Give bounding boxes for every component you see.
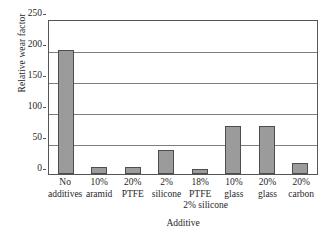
bar [292,163,308,174]
bar-slot [250,21,284,174]
bar [192,169,208,174]
x-tick-label: 20%carbon [284,177,318,200]
x-tick-line-2: additives [48,189,82,201]
y-tick-mark [43,76,46,77]
x-tick-line-2: carbon [284,189,318,201]
x-tick-label: 10%glass [217,177,251,200]
y-tick-mark [43,169,46,170]
bar-slot [183,21,217,174]
x-tick-label: Noadditives [48,177,82,200]
x-tick-label: 10%aramid [82,177,116,200]
x-tick-label: 2%silicone [150,177,184,200]
bar-slot [83,21,117,174]
y-tick-mark [43,107,46,108]
y-tick-mark [43,14,46,15]
bar [125,167,141,174]
bar-slot [116,21,150,174]
x-tick-line-2: glass [251,189,285,201]
x-tick-line-2: PTFE [116,189,150,201]
bar [91,167,107,174]
bar-slot [284,21,318,174]
x-tick-line-1: 20% [116,177,150,189]
x-tick-line-1: 10% [217,177,251,189]
y-tick-mark [43,138,46,139]
bar-slot [150,21,184,174]
x-tick-label: 20%glass [251,177,285,200]
x-tick-line-2: glass [217,189,251,201]
x-tick-label: 18%PTFE2% silicone [183,177,217,200]
x-tick-label: 20%PTFE [116,177,150,200]
y-tick-label: 200 [28,40,42,50]
y-tick-label: 150 [28,71,42,81]
x-axis-tick-labels: Noadditives10%aramid20%PTFE2%silicone18%… [48,177,318,200]
bar-chart-figure: Relative wear factor 050100150200250 Noa… [0,0,329,240]
x-tick-line-1: 2% [150,177,184,189]
bar-slot [49,21,83,174]
x-tick-line-1: 20% [251,177,285,189]
x-tick-line-1: 18% [183,177,217,189]
y-axis-tick-labels: 050100150200250 [12,14,46,176]
y-tick-label: 0 [37,164,42,174]
x-tick-line-1: No [48,177,82,189]
bar-series [49,21,317,174]
x-tick-line-3: 2% silicone [183,200,217,212]
bar-slot [217,21,251,174]
x-tick-line-2: PTFE [183,189,217,201]
y-tick-label: 100 [28,102,42,112]
bar [259,126,275,174]
y-tick-mark [43,45,46,46]
x-tick-line-2: silicone [150,189,184,201]
y-tick-label: 250 [28,9,42,19]
x-tick-line-2: aramid [82,189,116,201]
x-axis-title: Additive [48,218,318,228]
plot-area [48,20,318,175]
x-tick-line-1: 10% [82,177,116,189]
bar [158,150,174,174]
y-tick-label: 50 [33,133,43,143]
x-tick-line-1: 20% [284,177,318,189]
bar [58,50,74,174]
bar [225,126,241,174]
